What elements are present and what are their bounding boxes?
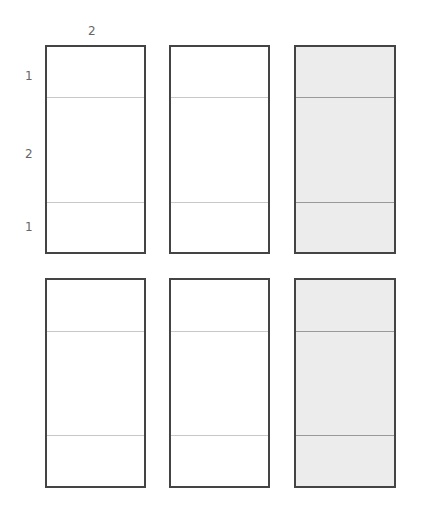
panel-r1-c2 (169, 45, 270, 254)
panel-r2-c1 (45, 278, 146, 488)
divider-line (171, 331, 268, 332)
height-label-middle: 2 (25, 148, 33, 160)
divider-line (171, 97, 268, 98)
divider-line (296, 331, 394, 332)
divider-line (296, 202, 394, 203)
divider-line (47, 331, 144, 332)
divider-line (171, 435, 268, 436)
height-label-top: 1 (25, 70, 33, 82)
divider-line (47, 97, 144, 98)
divider-line (47, 435, 144, 436)
divider-line (296, 97, 394, 98)
divider-line (47, 202, 144, 203)
divider-line (171, 202, 268, 203)
height-label-bottom: 1 (25, 221, 33, 233)
width-label: 2 (88, 25, 96, 37)
panel-r1-c1 (45, 45, 146, 254)
divider-line (296, 435, 394, 436)
panel-r1-c3-shaded (294, 45, 396, 254)
panel-r2-c2 (169, 278, 270, 488)
panel-r2-c3-shaded (294, 278, 396, 488)
